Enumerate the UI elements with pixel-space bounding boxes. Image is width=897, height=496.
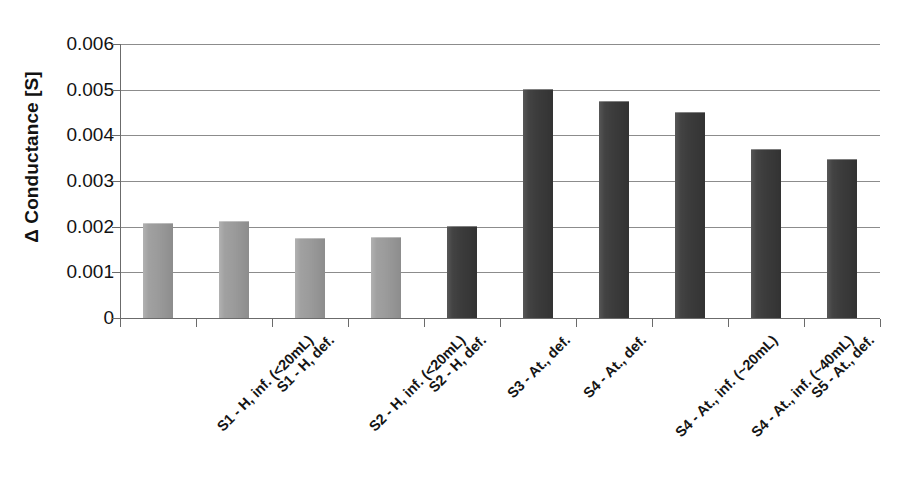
x-axis-tick-mark bbox=[804, 319, 805, 327]
x-axis-tick-mark bbox=[196, 319, 197, 327]
y-axis-tick-mark bbox=[112, 44, 121, 45]
y-axis-tick-mark bbox=[112, 181, 121, 182]
bar-chart: Δ Conductance [S] 0.0060.0050.0040.0030.… bbox=[0, 0, 897, 496]
x-axis-tick-labels: S1 - H, inf. (<20mL)S1 - H, def.S2 - H, … bbox=[0, 0, 897, 496]
x-axis-tick-mark bbox=[728, 319, 729, 327]
y-axis-tick-mark bbox=[112, 272, 121, 273]
x-axis-tick-mark bbox=[120, 319, 121, 327]
x-axis-tick-label: S3 - At., def. bbox=[504, 332, 573, 401]
x-axis-tick-label: S4 - At., def. bbox=[580, 332, 649, 401]
x-axis-tick-mark bbox=[424, 319, 425, 327]
x-axis-tick-label: S2 - H, inf. (<20mL) bbox=[366, 332, 468, 434]
x-axis-tick-label: S1 - H, inf. (<20mL) bbox=[214, 332, 316, 434]
x-axis-tick-mark bbox=[272, 319, 273, 327]
y-axis-tick-mark bbox=[112, 227, 121, 228]
y-axis-tick-mark bbox=[112, 90, 121, 91]
x-axis-tick-mark bbox=[576, 319, 577, 327]
x-axis-tick-mark bbox=[652, 319, 653, 327]
x-axis-tick-mark bbox=[500, 319, 501, 327]
x-axis-tick-mark bbox=[348, 319, 349, 327]
y-axis-tick-mark bbox=[112, 135, 121, 136]
x-axis-tick-mark bbox=[880, 319, 881, 327]
